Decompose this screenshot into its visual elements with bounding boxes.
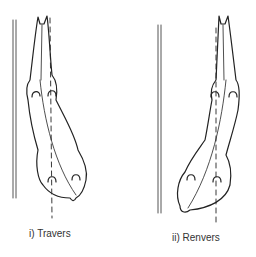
wall-left-icon bbox=[13, 20, 16, 198]
horse-outline-travers bbox=[27, 16, 87, 201]
diagram-drawing bbox=[0, 0, 256, 257]
travers-panel bbox=[13, 16, 87, 218]
horse-lateral-movements-diagram: i) Travers ii) Renvers bbox=[0, 0, 256, 257]
renvers-panel bbox=[158, 16, 239, 222]
horse-outline-renvers bbox=[178, 16, 240, 212]
hoof-front-right-icon bbox=[229, 92, 237, 97]
hoof-hind-right-icon bbox=[213, 177, 221, 182]
hoof-front-left-icon bbox=[32, 92, 40, 97]
hoof-front-left-icon bbox=[211, 92, 219, 97]
hoof-front-right-icon bbox=[48, 91, 56, 96]
wall-right-icon bbox=[158, 25, 161, 213]
hoof-hind-left-icon bbox=[187, 175, 195, 180]
caption-renvers: ii) Renvers bbox=[172, 232, 220, 243]
hoof-hind-right-icon bbox=[72, 175, 80, 180]
caption-travers: i) Travers bbox=[29, 228, 71, 239]
